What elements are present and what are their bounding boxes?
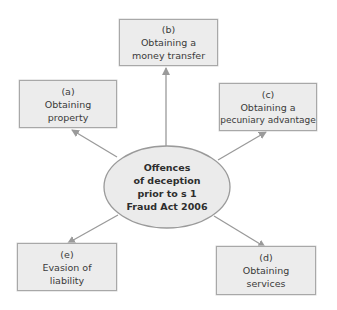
node-label: (e)	[60, 248, 73, 261]
node-label: (c)	[262, 88, 275, 101]
node-d-services: (d) Obtaining services	[216, 246, 316, 295]
node-text: pecuniary advantage	[220, 114, 316, 127]
node-b-money-transfer: (b) Obtaining a money transfer	[119, 19, 218, 66]
node-text: Obtaining a	[141, 36, 196, 49]
node-label: (d)	[259, 251, 272, 264]
node-text: Obtaining a	[240, 101, 295, 114]
center-line: Offences	[144, 161, 191, 174]
node-text: Obtaining	[45, 98, 91, 111]
node-text: liability	[50, 274, 84, 287]
node-text: property	[48, 111, 89, 124]
node-a-property: (a) Obtaining property	[19, 80, 117, 128]
node-text: Evasion of	[42, 261, 91, 274]
node-c-pecuniary-advantage: (c) Obtaining a pecuniary advantage	[219, 83, 317, 131]
node-label: (b)	[162, 23, 175, 36]
node-label: (a)	[61, 85, 74, 98]
center-line: prior to s 1	[137, 187, 196, 200]
center-line: Fraud Act 2006	[126, 200, 207, 213]
center-line: of deception	[133, 174, 200, 187]
node-text: services	[247, 277, 286, 290]
center-node: Offences of deception prior to s 1 Fraud…	[104, 146, 230, 228]
node-text: money transfer	[132, 49, 205, 62]
node-e-evasion-of-liability: (e) Evasion of liability	[17, 243, 117, 291]
node-text: Obtaining	[243, 264, 289, 277]
